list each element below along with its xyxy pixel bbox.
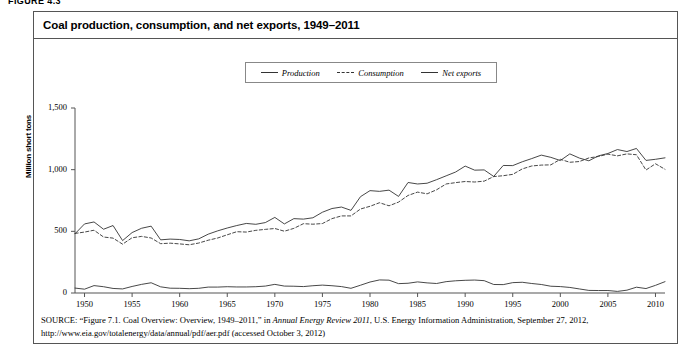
source-label: SOURCE: [41,315,77,325]
y-tick-label: 1,500 [33,102,67,112]
legend-line-dashed-icon [337,72,354,74]
y-axis-title: Million short tons [24,164,33,178]
figure-border-box [33,11,678,344]
x-tick-label: 1960 [162,299,198,309]
x-tick-label: 2000 [542,299,578,309]
x-tick-label: 1990 [447,299,483,309]
y-tick-label: 500 [33,225,67,235]
x-tick-label: 2005 [590,299,626,309]
y-tick-label: 1,000 [33,164,67,174]
legend-line-solid-icon [261,72,278,74]
x-tick-label: 1980 [352,299,388,309]
source-text-part1: “Figure 7.1. Coal Overview: Overview, 19… [77,315,272,325]
figure-container: FIGURE 4.3 Coal production, consumption,… [0,0,686,357]
x-tick-label: 1975 [304,299,340,309]
x-tick-label: 2010 [637,299,673,309]
x-tick-label: 1970 [257,299,293,309]
legend-item-consumption: Consumption [337,68,403,78]
figure-title: Coal production, consumption, and net ex… [33,19,359,31]
x-tick-label: 1965 [209,299,245,309]
source-publication-title: Annual Energy Review 2011 [273,315,370,325]
y-tick-label: 0 [33,287,67,297]
legend-label-production: Production [282,68,320,78]
legend-item-production: Production [261,68,320,78]
legend-label-consumption: Consumption [358,68,403,78]
chart-legend: Production Consumption Net exports [245,62,497,83]
x-tick-label: 1955 [114,299,150,309]
figure-number-label: FIGURE 4.3 [8,0,61,6]
legend-label-net-exports: Net exports [442,68,481,78]
x-tick-label: 1995 [495,299,531,309]
legend-item-net-exports: Net exports [421,68,481,78]
x-tick-label: 1950 [67,299,103,309]
x-tick-label: 1985 [400,299,436,309]
legend-line-solid-icon [421,72,438,74]
figure-title-band: Coal production, consumption, and net ex… [33,11,678,39]
source-note: SOURCE: “Figure 7.1. Coal Overview: Over… [41,314,671,339]
